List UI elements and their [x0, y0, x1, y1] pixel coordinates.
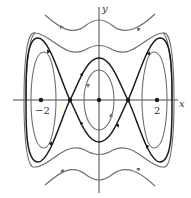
center-point-right	[155, 98, 159, 102]
center-point-left	[39, 98, 43, 102]
saddle-point-left	[68, 98, 72, 102]
phase-portrait: x y −2 2	[0, 0, 191, 198]
tick-label-neg2: −2	[35, 105, 50, 116]
y-axis-label: y	[101, 3, 108, 14]
x-axis-label: x	[179, 98, 185, 109]
center-point-origin	[97, 98, 101, 102]
saddle-point-right	[126, 98, 130, 102]
tick-label-2: 2	[154, 105, 160, 116]
